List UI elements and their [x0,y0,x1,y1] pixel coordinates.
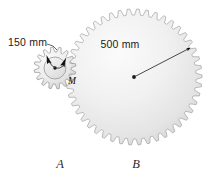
gear-diagram-svg: 500 mm 150 mm M A B [0,0,217,179]
gear-b-name-label: B [132,157,140,171]
gear-figure: 500 mm 150 mm M A B [0,0,217,179]
gear-a-diameter-label: 150 mm [8,36,47,48]
moment-label: M [67,76,77,86]
gear-a-name-label: A [55,157,64,171]
gear-b-radius-label: 500 mm [100,38,139,50]
dimension-150mm: 150 mm [8,36,57,50]
